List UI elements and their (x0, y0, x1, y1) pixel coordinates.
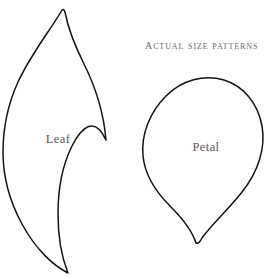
petal-shape-outline (143, 78, 263, 244)
leaf-shape-label: Leaf (46, 132, 71, 147)
page-title: Actual size patterns (145, 37, 258, 53)
petal-shape-label: Petal (193, 140, 220, 155)
pattern-sheet: Actual size patterns Leaf Petal (0, 0, 269, 277)
